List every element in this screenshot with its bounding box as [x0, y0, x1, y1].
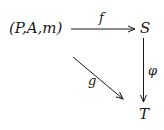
arrow-g: [73, 57, 123, 99]
label-phi: φ: [148, 64, 157, 77]
label-g: g: [88, 74, 96, 87]
node-t: T: [139, 107, 149, 122]
label-f: f: [99, 11, 104, 24]
node-s: S: [140, 21, 150, 36]
node-pam: (P,A,m): [9, 21, 62, 36]
